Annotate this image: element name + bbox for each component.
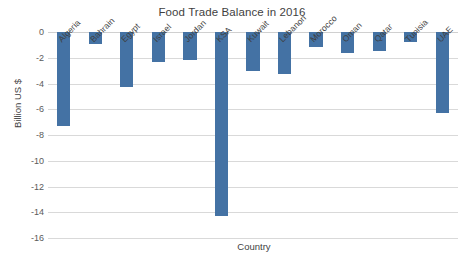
bar-qatar[interactable]	[373, 32, 386, 51]
bar-tunisia[interactable]	[404, 32, 417, 42]
gridline	[48, 238, 458, 239]
bar-israel[interactable]	[152, 32, 165, 62]
y-axis-tick-label: -16	[4, 233, 44, 243]
gridline	[48, 187, 458, 188]
y-axis-tick-label: -4	[4, 79, 44, 89]
gridline	[48, 109, 458, 110]
bar-lebanon[interactable]	[278, 32, 291, 74]
chart-title: Food Trade Balance in 2016	[0, 6, 464, 18]
bar-uae[interactable]	[436, 32, 449, 113]
y-axis-tick-labels: 0-2-4-6-8-10-12-14-16	[0, 32, 44, 238]
bar-bahrain[interactable]	[89, 32, 102, 44]
y-axis-tick-label: 0	[4, 27, 44, 37]
bar-ksa[interactable]	[215, 32, 228, 216]
bar-algeria[interactable]	[57, 32, 70, 126]
bar-egypt[interactable]	[120, 32, 133, 87]
y-axis-tick-label: -14	[4, 207, 44, 217]
y-axis-tick-label: -10	[4, 156, 44, 166]
gridline	[48, 212, 458, 213]
gridline	[48, 135, 458, 136]
y-axis-tick-label: -2	[4, 53, 44, 63]
bar-jordan[interactable]	[183, 32, 196, 60]
bar-oman[interactable]	[341, 32, 354, 53]
y-axis-tick-label: -12	[4, 182, 44, 192]
y-axis-tick-label: -6	[4, 104, 44, 114]
bar-morocco[interactable]	[309, 32, 322, 47]
gridline	[48, 84, 458, 85]
bar-kuwait[interactable]	[246, 32, 259, 71]
x-axis-title: Country	[48, 241, 460, 252]
chart-container: Food Trade Balance in 2016 Billion US $ …	[0, 0, 464, 267]
plot-area	[48, 32, 458, 238]
y-axis-tick-label: -8	[4, 130, 44, 140]
gridline	[48, 161, 458, 162]
